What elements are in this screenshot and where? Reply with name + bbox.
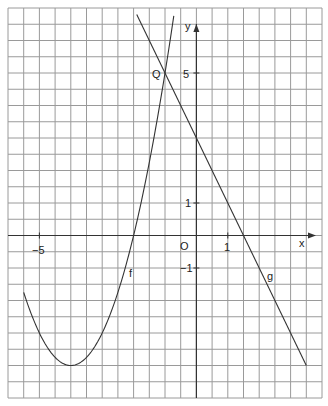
grid: [8, 8, 322, 398]
point-q-label: Q: [152, 68, 161, 80]
curve-f-label: f: [129, 267, 133, 279]
y-axis-arrow-icon: [193, 24, 199, 32]
x-axis-arrow-icon: [308, 233, 316, 239]
x-axis-label: x: [299, 237, 305, 249]
y-tick-label-1: 1: [185, 197, 191, 209]
line-g: [137, 15, 307, 366]
y-axis-label: y: [185, 20, 191, 32]
function-graph: x y O −5 1 5 1 −1 Q f g: [0, 0, 328, 406]
x-tick-label-minus5: −5: [32, 244, 45, 256]
line-g-label: g: [267, 270, 273, 282]
x-tick-label-1: 1: [224, 241, 230, 253]
y-tick-label-minus1: −1: [180, 262, 193, 274]
origin-label: O: [180, 240, 189, 252]
y-tick-label-5: 5: [183, 68, 189, 80]
